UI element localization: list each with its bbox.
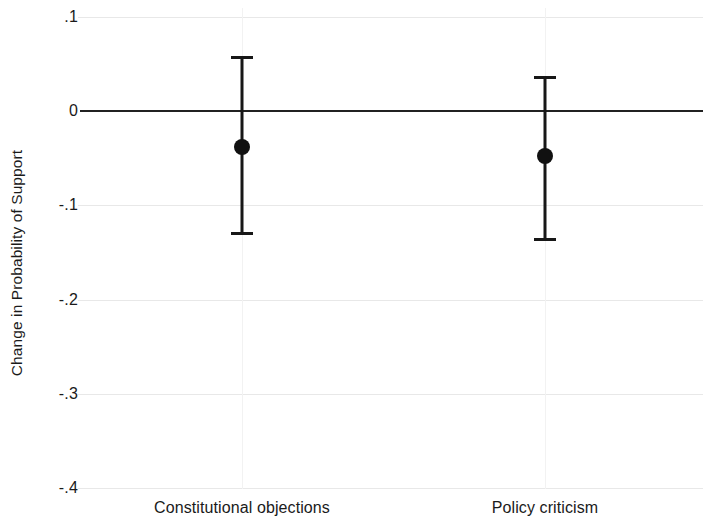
y-gridline	[78, 300, 703, 301]
plot-area: .10-.1-.2-.3-.4Constitutional objections…	[0, 0, 703, 526]
y-gridline	[78, 17, 703, 18]
y-axis-tick-label: -.4	[18, 479, 78, 497]
point-estimate-marker	[234, 139, 250, 155]
error-bar-lower-cap	[534, 238, 556, 241]
y-axis-tick-label: .1	[18, 8, 78, 26]
error-bar-upper-cap	[231, 56, 253, 59]
y-gridline	[78, 205, 703, 206]
y-axis-tick-label: -.3	[18, 385, 78, 403]
y-gridline	[78, 394, 703, 395]
chart-figure: Change in Probability of Support .10-.1-…	[0, 0, 703, 526]
x-axis-tick-label: Policy criticism	[492, 499, 599, 517]
y-axis-tick-label: -.2	[18, 291, 78, 309]
x-axis-tick-label: Constitutional objections	[154, 499, 330, 517]
y-axis-tick-label: 0	[18, 102, 78, 120]
y-axis-tick-label: -.1	[18, 196, 78, 214]
error-bar-upper-cap	[534, 76, 556, 79]
error-bar-lower-cap	[231, 232, 253, 235]
point-estimate-marker	[537, 148, 553, 164]
y-gridline	[78, 488, 703, 489]
zero-reference-line	[80, 110, 703, 112]
